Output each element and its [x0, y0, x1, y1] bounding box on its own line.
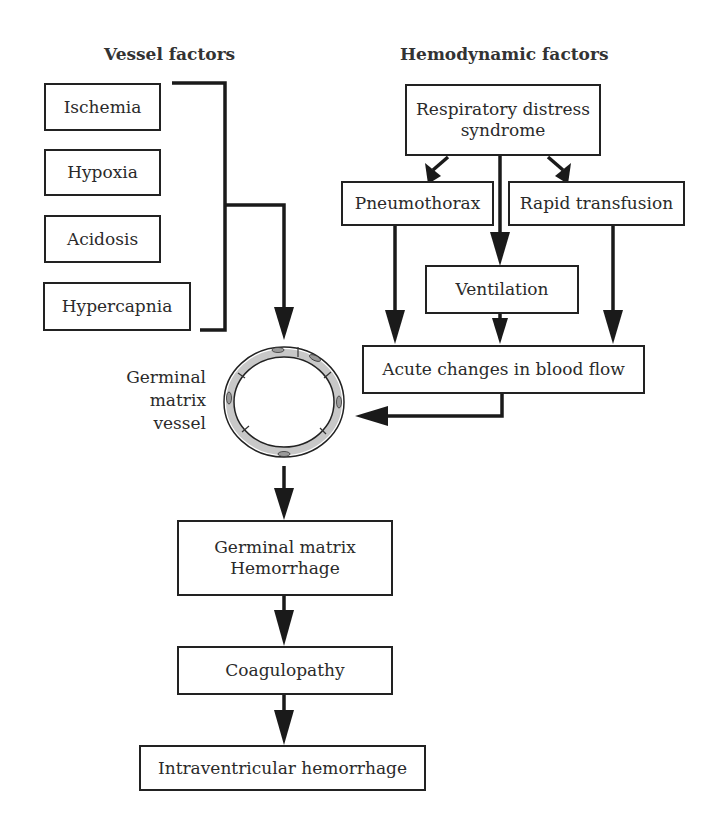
rds-line1: Respiratory distress — [416, 99, 590, 120]
ventilation-label: Ventilation — [455, 279, 548, 300]
box-pneumothorax: Pneumothorax — [341, 181, 494, 226]
box-ischemia: Ischemia — [44, 83, 161, 131]
gmh-line1: Germinal matrix — [214, 537, 356, 558]
gmh-line2: Hemorrhage — [230, 558, 340, 579]
box-hypercapnia: Hypercapnia — [43, 282, 191, 331]
heading-hemodynamic-factors: Hemodynamic factors — [400, 44, 608, 64]
box-hypoxia-label: Hypoxia — [67, 162, 138, 183]
box-coagulopathy: Coagulopathy — [177, 646, 393, 695]
box-rapid-transfusion: Rapid transfusion — [508, 181, 685, 226]
box-germinal-matrix-hemorrhage: Germinal matrix Hemorrhage — [177, 520, 393, 596]
germinal-matrix-vessel-icon — [218, 342, 350, 462]
coagulopathy-label: Coagulopathy — [225, 660, 344, 681]
vessel-label-line2: matrix — [112, 389, 206, 412]
box-ventilation: Ventilation — [425, 265, 579, 314]
box-ischemia-label: Ischemia — [64, 97, 142, 118]
vessel-label-line3: vessel — [112, 412, 206, 435]
box-acidosis: Acidosis — [44, 215, 161, 263]
heading-vessel-factors: Vessel factors — [104, 44, 235, 64]
box-intraventricular-hemorrhage: Intraventricular hemorrhage — [139, 745, 426, 791]
rds-line2: syndrome — [461, 120, 546, 141]
ivh-label: Intraventricular hemorrhage — [158, 758, 407, 779]
box-acute-changes-blood-flow: Acute changes in blood flow — [362, 345, 645, 394]
germinal-matrix-vessel-label: Germinal matrix vessel — [112, 366, 206, 435]
blood-flow-label: Acute changes in blood flow — [382, 359, 625, 380]
box-respiratory-distress-syndrome: Respiratory distress syndrome — [405, 84, 601, 156]
rapid-transfusion-label: Rapid transfusion — [520, 193, 673, 214]
box-acidosis-label: Acidosis — [67, 229, 138, 250]
box-hypercapnia-label: Hypercapnia — [62, 296, 173, 317]
box-hypoxia: Hypoxia — [44, 149, 161, 196]
pneumothorax-label: Pneumothorax — [355, 193, 481, 214]
vessel-label-line1: Germinal — [112, 366, 206, 389]
